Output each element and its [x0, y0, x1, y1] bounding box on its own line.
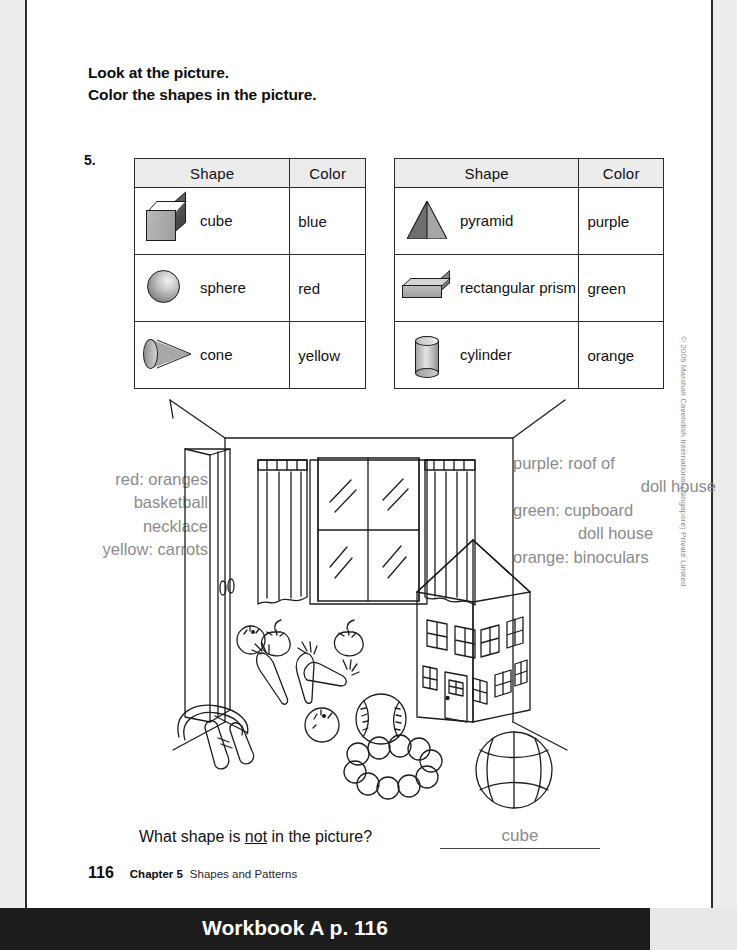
page-number: 116 [88, 864, 114, 881]
answer-rule [440, 848, 600, 849]
answer-blank[interactable]: cube [440, 826, 600, 849]
question-suffix: in the picture? [267, 828, 372, 845]
table-row: sphere red [135, 255, 366, 322]
copyright-notice: © 2009 Marshall Cavendish International … [679, 336, 688, 587]
header-color: Color [579, 159, 664, 188]
shape-cell-pyramid: pyramid [395, 188, 579, 255]
question-number: 5. [84, 152, 96, 168]
worksheet-page: Look at the picture. Color the shapes in… [0, 0, 737, 950]
instruction-line-1: Look at the picture. [88, 62, 316, 84]
bottom-bar: Workbook A p. 116 [0, 908, 650, 950]
shape-label: rectangular prism [460, 280, 576, 297]
pyramid-icon [400, 193, 454, 249]
color-cell: orange [579, 322, 664, 389]
table-row: cube blue [135, 188, 366, 255]
color-cell: purple [579, 188, 664, 255]
rectangular-prism-icon [400, 260, 454, 316]
cone-icon [140, 327, 194, 383]
table-header-row: Shape Color [135, 159, 366, 188]
shape-color-table-left: Shape Color cube blue [134, 158, 366, 389]
bottom-bar-label: Workbook A p. 116 [0, 916, 650, 940]
chapter-label: Chapter 5 [130, 868, 183, 880]
room-picture [155, 392, 580, 817]
cylinder-icon [400, 327, 454, 383]
table-row: cone yellow [135, 322, 366, 389]
color-cell: red [290, 255, 366, 322]
table-row: cylinder orange [395, 322, 664, 389]
chapter-title: Shapes and Patterns [190, 868, 297, 880]
sphere-icon [140, 260, 194, 316]
answer-text: cube [440, 826, 600, 848]
table-row: pyramid purple [395, 188, 664, 255]
color-cell: blue [290, 188, 366, 255]
shape-cell-cylinder: cylinder [395, 322, 579, 389]
instructions-block: Look at the picture. Color the shapes in… [88, 62, 316, 107]
shape-cell-sphere: sphere [135, 255, 290, 322]
instruction-line-2: Color the shapes in the picture. [88, 84, 316, 106]
header-shape: Shape [135, 159, 290, 188]
shape-label: pyramid [460, 213, 513, 230]
shape-label: cylinder [460, 347, 512, 364]
color-cell: yellow [290, 322, 366, 389]
header-color: Color [290, 159, 366, 188]
shape-label: cube [200, 213, 233, 230]
shape-cell-cone: cone [135, 322, 290, 389]
bottom-question: What shape is not in the picture? [139, 828, 372, 846]
header-shape: Shape [395, 159, 579, 188]
question-prefix: What shape is [139, 828, 245, 845]
shape-label: sphere [200, 280, 246, 297]
shape-cell-cube: cube [135, 188, 290, 255]
cube-icon [140, 193, 194, 249]
shape-color-table-right: Shape Color [394, 158, 664, 389]
table-row: rectangular prism green [395, 255, 664, 322]
color-cell: green [579, 255, 664, 322]
table-header-row: Shape Color [395, 159, 664, 188]
shape-label: cone [200, 347, 233, 364]
question-emphasis: not [245, 828, 267, 845]
bottom-right-corner [650, 908, 737, 950]
shape-cell-rectangular-prism: rectangular prism [395, 255, 579, 322]
page-footer: 116Chapter 5Shapes and Patterns [88, 864, 297, 882]
